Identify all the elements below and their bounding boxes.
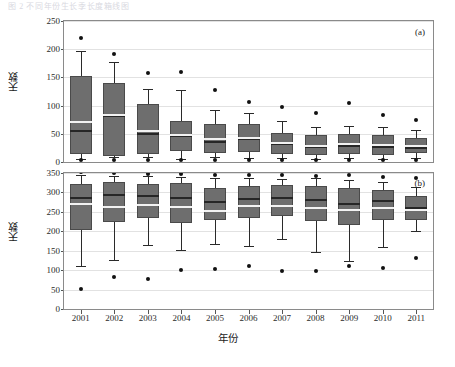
y-axis-label-panel-a: 天数 xyxy=(6,72,21,92)
y-axis-panel-b: 050100150200250300350 xyxy=(20,172,60,310)
x-tick-mark xyxy=(249,310,250,314)
box-plot-group xyxy=(64,21,433,162)
x-tick-label: 2003 xyxy=(139,313,157,323)
y-tick-label: 200 xyxy=(47,227,61,236)
outlier-point xyxy=(414,256,418,260)
outlier-point xyxy=(414,118,418,122)
x-tick-label: 2002 xyxy=(105,313,123,323)
x-tick-mark xyxy=(383,310,384,314)
x-tick-label: 2001 xyxy=(72,313,90,323)
y-tick-label: 0 xyxy=(56,158,61,167)
x-tick-mark xyxy=(215,310,216,314)
whisker-cap-lower xyxy=(411,231,421,232)
y-tick-label: 250 xyxy=(47,17,61,26)
x-tick-label: 2004 xyxy=(172,313,190,323)
x-tick-label: 2005 xyxy=(206,313,224,323)
y-tick-label: 150 xyxy=(47,246,61,255)
panel-label-b: (b) xyxy=(415,178,426,188)
y-tick-label: 350 xyxy=(47,169,61,178)
x-tick-mark xyxy=(81,310,82,314)
x-tick-mark xyxy=(349,310,350,314)
plot-area-panel-a xyxy=(64,21,433,162)
panel-label-a: (a) xyxy=(415,27,425,37)
box-plot-group xyxy=(64,173,433,309)
x-tick-label: 2009 xyxy=(340,313,358,323)
x-tick-mark xyxy=(148,310,149,314)
x-tick-mark xyxy=(181,310,182,314)
figure-canvas: 图 2 不同年份生长季长度箱线图 050100150200250 天数 (a) … xyxy=(0,0,455,367)
x-tick-mark xyxy=(416,310,417,314)
x-tick-label: 2007 xyxy=(273,313,291,323)
y-tick-label: 300 xyxy=(47,188,61,197)
outlier-point xyxy=(414,158,418,162)
y-tick-label: 100 xyxy=(47,266,61,275)
plot-panel-a: (a) xyxy=(63,20,434,163)
y-axis-label-panel-b: 天数 xyxy=(6,222,21,242)
whisker-upper xyxy=(416,130,417,138)
plot-area-panel-b xyxy=(64,173,433,309)
x-tick-label: 2010 xyxy=(374,313,392,323)
whisker-lower xyxy=(416,220,417,231)
x-tick-label: 2008 xyxy=(307,313,325,323)
y-axis-panel-a: 050100150200250 xyxy=(20,20,60,163)
y-tick-label: 0 xyxy=(56,305,61,314)
y-tick-label: 100 xyxy=(47,101,61,110)
y-tick-label: 250 xyxy=(47,207,61,216)
y-tick-label: 50 xyxy=(51,129,60,138)
y-tick-label: 200 xyxy=(47,45,61,54)
whisker-upper xyxy=(416,187,417,195)
x-tick-label: 2006 xyxy=(240,313,258,323)
whisker-cap-upper xyxy=(411,130,421,131)
median-line xyxy=(405,209,427,211)
figure-caption-strip: 图 2 不同年份生长季长度箱线图 xyxy=(8,0,238,10)
x-tick-mark xyxy=(316,310,317,314)
x-tick-label: 2011 xyxy=(407,313,425,323)
x-tick-mark xyxy=(114,310,115,314)
y-tick-label: 50 xyxy=(51,285,60,294)
x-axis-label: 年份 xyxy=(0,330,455,345)
x-tick-mark xyxy=(282,310,283,314)
median-line xyxy=(405,145,427,147)
plot-panel-b: (b) xyxy=(63,172,434,310)
y-tick-label: 150 xyxy=(47,73,61,82)
